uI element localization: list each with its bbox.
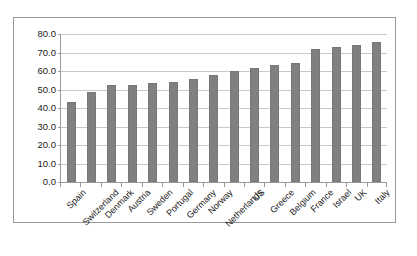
bar-uk[interactable] [352,45,361,182]
bar-netherlands[interactable] [230,71,239,182]
x-label-slot: Greece [264,187,284,223]
bar-us[interactable] [250,68,259,182]
bar-slot [326,34,346,182]
x-label-slot: Italy [367,187,387,223]
bar-slot [265,34,285,182]
bar-slot [122,34,142,182]
bar-belgium[interactable] [291,63,300,182]
x-label-slot: UK [346,187,366,223]
bar-slot [306,34,326,182]
x-label-slot: Netherlands [224,187,244,223]
y-axis-tick-label: 10.0 [38,159,57,169]
x-label-slot: US [244,187,264,223]
y-axis-tick-label: 60.0 [38,66,57,76]
y-axis-tick-label: 30.0 [38,122,57,132]
y-axis-tick-label: 50.0 [38,85,57,95]
bar-slot [204,34,224,182]
y-axis-tick-label: 70.0 [38,48,57,58]
bar-slot [81,34,101,182]
x-label-slot: Sweden [142,187,162,223]
x-label-slot: Germany [183,187,203,223]
plot-area: 0.010.020.030.040.050.060.070.080.0 [60,34,387,183]
bar-greece[interactable] [270,65,279,182]
y-axis-tick-label: 80.0 [38,29,57,39]
bar-germany[interactable] [189,79,198,182]
bar-sweden[interactable] [148,83,157,182]
x-label-slot: Denmark [101,187,121,223]
x-label-slot: Belgium [285,187,305,223]
y-axis-tick-label: 40.0 [38,103,57,113]
x-label-slot: Portugal [162,187,182,223]
bar-austria[interactable] [128,85,137,182]
bar-norway[interactable] [209,75,218,182]
bar-slot [143,34,163,182]
bar-spain[interactable] [67,102,76,182]
x-label-slot: Austria [121,187,141,223]
x-axis-labels: SpainSwitzerlandDenmarkAustriaSwedenPort… [60,187,387,223]
x-label-slot: Israel [326,187,346,223]
bar-slot [61,34,81,182]
bar-denmark[interactable] [107,85,116,182]
chart-frame: 0.010.020.030.040.050.060.070.080.0 Spai… [13,17,396,223]
bar-slot [244,34,264,182]
bar-france[interactable] [311,49,320,182]
bar-slot [224,34,244,182]
x-label-slot: France [305,187,325,223]
bar-slot [346,34,366,182]
x-label-slot: Norway [203,187,223,223]
bar-slot [285,34,305,182]
bar-portugal[interactable] [169,82,178,182]
bar-israel[interactable] [332,47,341,182]
bar-slot [102,34,122,182]
x-label-slot: Switzerland [80,187,100,223]
bar-slot [367,34,387,182]
y-axis-tick-label: 20.0 [38,140,57,150]
bar-switzerland[interactable] [87,92,96,182]
x-label-slot: Spain [60,187,80,223]
bar-slot [163,34,183,182]
bar-slot [183,34,203,182]
bars-layer [61,34,387,182]
bar-italy[interactable] [372,42,381,182]
y-axis-tick-label: 0.0 [43,177,56,187]
x-axis-category-label-italy: Italy [373,188,391,206]
